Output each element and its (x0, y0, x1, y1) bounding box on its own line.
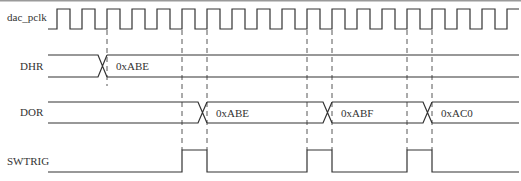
bus-value-label: 0xABF (341, 107, 373, 119)
bus-value-label: 0xAC0 (441, 107, 473, 119)
swtrig-waveform (48, 150, 519, 172)
signal-label-dor: DOR (20, 106, 44, 118)
bus-transition (48, 102, 207, 123)
cycle-markers (107, 30, 432, 150)
dor-waveform: 0xABE0xABF0xAC0 (48, 102, 519, 123)
dhr-waveform: 0xABE (48, 55, 519, 77)
signal-label-swtrig: SWTRIG (7, 155, 49, 167)
bus-transition (48, 55, 107, 77)
bus-value-label: 0xABE (116, 60, 149, 72)
bus-tail (107, 55, 519, 77)
signal-label-dhr: DHR (20, 60, 44, 72)
signal-label-dac-pclk: dac_pclk (7, 11, 47, 23)
dac-pclk-waveform (48, 9, 519, 29)
timing-diagram: dac_pclk DHR DOR SWTRIG 0xABE 0xABE0xABF… (0, 0, 521, 181)
bus-value-label: 0xABE (216, 107, 249, 119)
